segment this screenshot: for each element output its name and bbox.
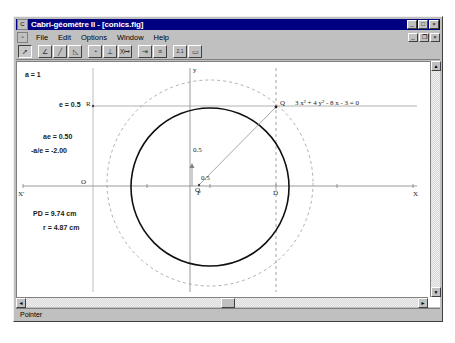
point-label-Q: Q [280, 99, 285, 107]
maximize-button[interactable]: □ [418, 20, 428, 29]
scroll-left-arrow[interactable]: ◄ [16, 298, 26, 308]
scroll-right-arrow[interactable]: ► [418, 298, 428, 308]
transform-icon: X↦ [119, 46, 131, 57]
app-icon[interactable]: C [17, 19, 28, 30]
circle-tool-button[interactable]: ◔ [88, 45, 102, 58]
h-scroll-thumb[interactable] [221, 298, 235, 308]
measure-tool-button[interactable]: 2.1 [173, 45, 187, 58]
circle-icon: ◔ [89, 46, 101, 57]
menu-item-help[interactable]: Help [149, 33, 174, 42]
minimize-button[interactable]: _ [407, 20, 417, 29]
radius-segment-FQ [199, 107, 276, 185]
label-semi-major-axis: a = 1 [25, 71, 41, 78]
tick-label-y-half: 0.5 [193, 146, 202, 154]
point-label-D: D [273, 189, 278, 197]
tick-label-x-half: 0.5 [201, 174, 210, 182]
document-icon[interactable]: ▫ [17, 32, 28, 43]
polygon-tool-button[interactable]: ◺ [68, 45, 82, 58]
menu-bar: ▫ File Edit Options Window Help _ ❐ × [16, 32, 440, 43]
horizontal-scrollbar[interactable]: ◄ ► [16, 297, 428, 307]
display-tool-button[interactable]: ▭ [188, 45, 202, 58]
point-label-O-left: O [81, 178, 86, 186]
application-window: C Cabri-géomètre II - [conics.fig] _ □ ×… [13, 16, 443, 322]
point-tool-button[interactable]: ∠ [38, 45, 52, 58]
pointer-tool-button[interactable]: ➚ [18, 45, 32, 58]
menu-item-edit[interactable]: Edit [53, 33, 76, 42]
point-Q [275, 106, 278, 109]
screenshot-root: C Cabri-géomètre II - [conics.fig] _ □ ×… [0, 0, 455, 343]
macro-tool-button[interactable]: ⇥ [138, 45, 152, 58]
macro-icon: ⇥ [139, 46, 151, 57]
v-scroll-track[interactable] [431, 61, 440, 297]
display-icon: ▭ [189, 46, 201, 57]
status-bar: Pointer [16, 308, 440, 319]
doc-close-button[interactable]: × [430, 33, 440, 42]
transform-tool-button[interactable]: X↦ [118, 45, 132, 58]
window-controls: _ □ × [407, 20, 439, 29]
menu-item-options[interactable]: Options [76, 33, 112, 42]
axis-label-x-negative: X' [18, 190, 24, 198]
drawing-canvas[interactable]: a = 1 e = 0.5 ae = 0.50 -a/e = -2.00 PD … [16, 61, 440, 307]
property-icon: ≡ [154, 46, 166, 57]
scroll-down-arrow[interactable]: ▼ [431, 287, 441, 297]
menu-item-window[interactable]: Window [112, 33, 149, 42]
close-button[interactable]: × [429, 20, 439, 29]
line-icon: ╱ [54, 46, 66, 57]
polygon-icon: ◺ [69, 46, 81, 57]
point-label-F: F [197, 189, 201, 197]
document-window-controls: _ ❐ × [408, 33, 440, 42]
label-pd-length: PD = 9.74 cm [33, 210, 76, 217]
geometry-figure [17, 62, 431, 299]
point-icon: ∠ [39, 46, 51, 57]
toolbar: ➚ ∠ ╱ ◺ ◔ ⊥ X↦ ⇥ [16, 44, 440, 60]
scroll-up-arrow[interactable]: ▲ [431, 61, 441, 71]
pointer-icon: ➚ [19, 46, 31, 57]
axis-label-x-positive: X [413, 190, 418, 198]
property-tool-button[interactable]: ≡ [153, 45, 167, 58]
line-tool-button[interactable]: ╱ [53, 45, 67, 58]
perpendicular-tool-button[interactable]: ⊥ [103, 45, 117, 58]
dashed-director-circle [107, 80, 313, 286]
conic-equation: 3 x² + 4 y² - 8 x - 3 = 0 [295, 99, 359, 107]
label-radius-length: r = 4.87 cm [43, 224, 79, 231]
perpendicular-icon: ⊥ [104, 46, 116, 57]
figure-container: a = 1 e = 0.5 ae = 0.50 -a/e = -2.00 PD … [17, 62, 431, 299]
measure-icon: 2.1 [174, 46, 186, 57]
status-message: Pointer [16, 311, 42, 318]
menu-item-file[interactable]: File [31, 33, 53, 42]
title-bar: C Cabri-géomètre II - [conics.fig] _ □ × [16, 19, 440, 30]
vertical-scrollbar[interactable]: ▲ ▼ [430, 61, 440, 297]
doc-restore-button[interactable]: ❐ [419, 33, 429, 42]
axis-label-y: y [193, 66, 197, 74]
window-title: Cabri-géomètre II - [conics.fig] [31, 20, 407, 29]
point-label-R: R [86, 100, 91, 108]
point-R [92, 105, 94, 107]
label-eccentricity: e = 0.5 [59, 101, 81, 108]
label-focal-distance: ae = 0.50 [43, 133, 72, 140]
label-directrix-distance: -a/e = -2.00 [31, 147, 67, 154]
doc-minimize-button[interactable]: _ [408, 33, 418, 42]
